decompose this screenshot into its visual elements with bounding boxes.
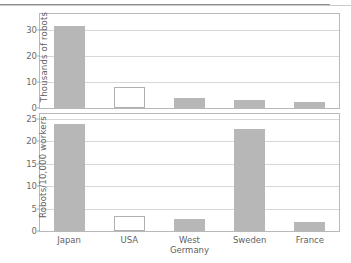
x-axis-label-line-1: Japan — [57, 235, 81, 245]
x-axis-label-line-1: France — [296, 235, 324, 245]
bar-japan — [54, 124, 85, 231]
plot-area-top: 0102030Thousands of robots — [40, 14, 339, 108]
y-axis-tick-label: 25 — [26, 114, 37, 123]
gridline — [40, 119, 339, 120]
bar-japan — [54, 26, 85, 108]
y-axis-tick-label: 10 — [26, 182, 37, 191]
bar-sweden — [234, 129, 265, 231]
bar-usa — [114, 87, 145, 108]
bar-sweden — [234, 100, 265, 108]
y-axis-tick-label: 0 — [32, 227, 37, 236]
x-axis-label-line-1: West — [179, 235, 200, 245]
scan-artifact-rule-secondary — [0, 5, 351, 6]
bar-usa — [114, 216, 145, 231]
y-axis-tick-label: 15 — [26, 159, 37, 168]
y-axis-tick-label: 30 — [26, 25, 37, 34]
y-axis-title-bottom: Robots/10,000 workers — [38, 97, 48, 237]
x-axis-label-line-2: Germany — [170, 245, 209, 255]
chart-panel-robots-per-workers: 0510152025Robots/10,000 workers — [39, 113, 340, 232]
x-axis-label-france: France — [296, 235, 324, 245]
y-axis-tick-label: 10 — [26, 78, 37, 87]
x-axis-label-japan: Japan — [57, 235, 81, 245]
x-axis-label-line-1: Sweden — [233, 235, 267, 245]
y-axis-tick-label: 0 — [32, 104, 37, 113]
y-axis-tick-label: 20 — [26, 137, 37, 146]
bar-france — [294, 102, 325, 108]
plot-area-bottom: 0510152025Robots/10,000 workers — [40, 114, 339, 231]
y-axis-tick-label: 5 — [32, 204, 37, 213]
x-axis-label-usa: USA — [121, 235, 139, 245]
chart-panel-thousands-of-robots: 0102030Thousands of robots — [39, 13, 340, 109]
y-axis-tick-label: 20 — [26, 52, 37, 61]
x-axis-category-labels: JapanUSAWestGermanySwedenFrance — [39, 233, 340, 261]
x-axis-label-west-germany: WestGermany — [170, 235, 209, 255]
bar-france — [294, 222, 325, 231]
bar-west-germany — [174, 219, 205, 231]
x-axis-label-sweden: Sweden — [233, 235, 267, 245]
bar-west-germany — [174, 98, 205, 108]
robot-statistics-figure: 0102030Thousands of robots 0510152025Rob… — [0, 0, 351, 263]
x-axis-label-line-1: USA — [121, 235, 139, 245]
